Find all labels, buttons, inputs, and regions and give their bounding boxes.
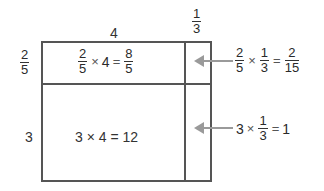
box-bottom-edge (41, 180, 212, 182)
box-left-edge (41, 41, 43, 182)
fraction-denominator: 15 (285, 61, 299, 74)
horizontal-divider (41, 83, 212, 85)
vertical-divider (184, 41, 186, 182)
box-right-edge (210, 41, 212, 182)
side-label-fraction: 2 5 (19, 49, 30, 76)
fraction-denominator: 5 (79, 62, 86, 75)
times-sign: × (248, 53, 256, 68)
fraction-denominator: 5 (21, 63, 28, 76)
fraction-denominator: 5 (125, 62, 132, 75)
cell-top-left-expression: 2 5 × 4 = 8 5 (77, 48, 134, 75)
factor: 4 (102, 54, 110, 70)
equals-sign: = (272, 121, 280, 136)
fraction-denominator: 3 (261, 61, 268, 74)
fraction-numerator: 2 (78, 48, 87, 61)
cell-bottom-left-expression: 3 × 4 = 12 (75, 130, 138, 144)
side-label-whole: 3 (25, 130, 33, 144)
top-label-fraction: 1 3 (191, 8, 202, 35)
arrow-shaft (202, 127, 233, 129)
fraction-numerator: 1 (258, 115, 267, 128)
fraction-numerator: 2 (235, 47, 244, 60)
factor: 3 (236, 121, 244, 137)
arrow-shaft (202, 60, 233, 62)
fraction-numerator: 1 (192, 8, 201, 21)
callout-top-expression: 2 5 × 1 3 = 2 15 (234, 47, 300, 74)
callout-bottom-expression: 3 × 1 3 = 1 (236, 115, 290, 142)
times-sign: × (91, 54, 99, 69)
equals-sign: = (273, 53, 281, 68)
box-top-edge (41, 41, 212, 43)
fraction-denominator: 3 (259, 129, 266, 142)
fraction-denominator: 3 (193, 22, 200, 35)
fraction-denominator: 5 (236, 61, 243, 74)
equals-sign: = (113, 54, 121, 69)
result: 1 (282, 121, 290, 137)
fraction-numerator: 1 (260, 47, 269, 60)
fraction-numerator: 8 (124, 48, 133, 61)
top-label-whole: 4 (110, 26, 118, 40)
fraction-numerator: 2 (20, 49, 29, 62)
fraction-numerator: 2 (287, 47, 296, 60)
times-sign: × (247, 121, 255, 136)
